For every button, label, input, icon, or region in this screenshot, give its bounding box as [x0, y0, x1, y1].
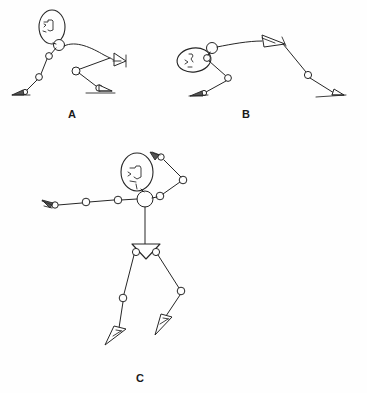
segment-a-lower-leg [27, 80, 37, 90]
segment-c-right-upper-arm [163, 182, 180, 194]
hand-triangle-icon-b-near [189, 90, 208, 96]
segment-a-hip-to-hand [80, 58, 110, 69]
hand-triangle-icon-c-left [42, 200, 58, 208]
segment-b-upper-arm [217, 41, 262, 47]
segment-c-left-upper-arm-2 [89, 200, 114, 202]
segment-c-left-forearm [58, 203, 82, 205]
segment-b-long-upper-leg [283, 44, 306, 72]
segment-a-upper-leg [41, 59, 47, 74]
panel-c-figure: C [42, 152, 187, 384]
segment-b-near-forearm [206, 81, 226, 92]
segment-c-left-thigh [124, 255, 134, 294]
joint-circle-icon-c-right-shoulder [156, 192, 164, 200]
panel-b-figure: B [175, 35, 346, 120]
joint-circle-icon-c-right-knee [177, 287, 185, 295]
segment-a-front-upper-leg [79, 73, 96, 86]
panel-label-c: C [136, 372, 144, 384]
head-profile-icon-c [121, 153, 153, 191]
hand-triangle-icon-b [262, 35, 286, 47]
segment-c-left-upper-arm-1 [121, 199, 137, 200]
segment-c-right-shin [166, 295, 180, 316]
hand-triangle-icon-a-right [113, 53, 126, 67]
segment-b-lower-leg [310, 78, 334, 93]
foot-triangle-icon-a-front [86, 85, 115, 93]
panel-label-a: A [68, 108, 76, 120]
foot-triangle-icon-a-rear [12, 89, 30, 95]
joint-circle-icon-c-left-shoulder [114, 196, 122, 204]
foot-triangle-icon-b-far [316, 89, 346, 97]
segment-b-near-upper-arm [209, 61, 226, 76]
joint-circle-icon-b-knee [304, 71, 311, 78]
segment-c-right-thigh [158, 255, 179, 288]
segment-a-neck-shoulder [51, 48, 56, 54]
head-profile-icon-a [39, 10, 65, 44]
panel-label-b: B [242, 108, 250, 120]
panel-a-figure: A [12, 10, 126, 120]
joint-circle-icon-c-left-elbow [82, 198, 90, 206]
stick-figure-diagram: A [0, 0, 367, 393]
segment-c-right-forearm [164, 160, 181, 177]
joint-circle-icon-a-knee [36, 74, 43, 81]
joint-circle-icon-a-hip [72, 67, 80, 75]
hand-triangle-icon-c-right [150, 152, 164, 160]
joint-circle-icon-b-shoulder [204, 55, 211, 62]
joint-circle-icon-c-left-hip [132, 248, 139, 255]
joint-circle-icon-c-right-hip [152, 248, 159, 255]
foot-triangle-icon-c-right [155, 314, 172, 335]
joint-circle-icon-c-right-elbow [179, 176, 187, 184]
segment-a-right-arm [64, 44, 114, 60]
segment-c-left-shin [119, 302, 123, 328]
pelvis-triangle-icon-c [132, 244, 160, 259]
joint-circle-icon-c-shoulder-center [137, 191, 153, 207]
joint-circle-icon-c-left-knee [119, 294, 127, 302]
joint-circle-icon-b-neck [207, 43, 218, 54]
diagram-canvas: A [0, 0, 367, 393]
joint-circle-icon-b-elbow [225, 75, 232, 82]
foot-triangle-icon-c-left [105, 326, 126, 345]
